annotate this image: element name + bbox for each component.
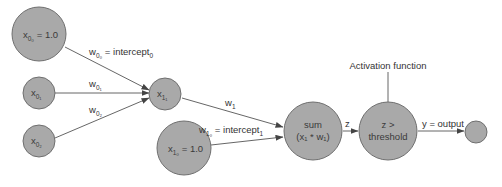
edge-label-output: y = output <box>422 118 464 129</box>
edge-label-w01: w0₁ <box>88 78 102 91</box>
edge-label-w02: w0₂ <box>88 104 102 117</box>
node-output <box>465 121 487 143</box>
edge-x10-sum <box>211 137 283 145</box>
edge-label-z: z <box>345 118 350 129</box>
label-sum-line2: (x₁ * w₁) <box>296 131 329 142</box>
activation-function-label: Activation function <box>349 60 426 71</box>
label-threshold-line2: threshold <box>368 131 407 142</box>
edge-label-w00: w0₀ = intercept0 <box>88 46 153 59</box>
edge-label-w10: w1₀ = intercept1 <box>198 124 263 137</box>
perceptron-diagram: x0₀ = 1.0 x0₁ x0₂ x1₁ x1₀ = 1.0 sum (x₁ … <box>0 0 502 187</box>
label-sum-line1: sum <box>304 119 322 130</box>
edge-x02-x11 <box>55 98 149 138</box>
edge-label-w1: w1 <box>224 97 236 110</box>
label-threshold-line1: z > <box>382 119 395 130</box>
